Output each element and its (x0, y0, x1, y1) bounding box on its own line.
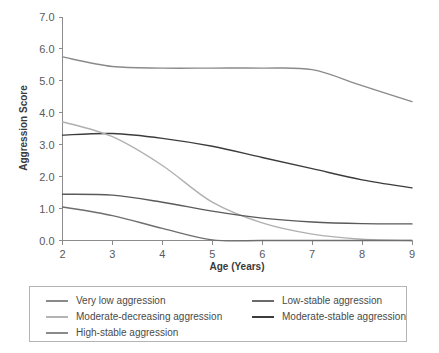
x-axis-ticks: 23456789 (59, 241, 415, 260)
y-tick-label: 3.0 (39, 139, 54, 151)
x-tick-label: 3 (109, 248, 115, 260)
x-tick-label: 6 (259, 248, 265, 260)
aggression-trajectory-figure: 0.01.02.03.04.05.06.07.0 23456789 Aggres… (0, 0, 439, 353)
series-lines (63, 57, 413, 241)
y-tick-label: 6.0 (39, 43, 54, 55)
x-tick-label: 7 (309, 248, 315, 260)
y-axis-title: Aggression Score (18, 85, 29, 171)
x-tick-label: 8 (359, 248, 365, 260)
legend-item-label: High-stable aggression (76, 325, 178, 340)
x-axis-title: Age (Years) (209, 261, 264, 272)
line-chart-svg: 0.01.02.03.04.05.06.07.0 23456789 Aggres… (0, 0, 439, 285)
legend-column-right: Low-stable aggressionModerate-stable agg… (252, 293, 406, 325)
legend-item-label: Moderate-decreasing aggression (76, 309, 222, 324)
legend-line-swatch (252, 300, 274, 302)
x-tick-label: 2 (59, 248, 65, 260)
y-axis-ticks: 0.01.02.03.04.05.06.07.0 (39, 11, 62, 247)
x-tick-label: 9 (409, 248, 415, 260)
series-line (63, 194, 413, 224)
y-tick-label: 5.0 (39, 75, 54, 87)
legend-item-label: Low-stable aggression (282, 293, 382, 308)
legend-grid: Very low aggressionModerate-decreasing a… (30, 287, 406, 341)
y-tick-label: 0.0 (39, 235, 54, 247)
legend-line-swatch (46, 300, 68, 302)
legend-item[interactable]: Very low aggression (46, 293, 222, 308)
legend-line-swatch (46, 316, 68, 318)
legend-item-label: Very low aggression (76, 293, 166, 308)
series-line (63, 133, 413, 187)
y-tick-label: 2.0 (39, 171, 54, 183)
chart-legend: Very low aggressionModerate-decreasing a… (29, 286, 407, 342)
y-tick-label: 7.0 (39, 11, 54, 23)
legend-item[interactable]: High-stable aggression (46, 325, 222, 340)
legend-item[interactable]: Low-stable aggression (252, 293, 406, 308)
series-line (63, 122, 413, 241)
x-tick-label: 5 (209, 248, 215, 260)
y-tick-label: 4.0 (39, 107, 54, 119)
y-tick-label: 1.0 (39, 203, 54, 215)
legend-line-swatch (46, 332, 68, 334)
legend-item[interactable]: Moderate-stable aggression (252, 309, 406, 324)
legend-column-left: Very low aggressionModerate-decreasing a… (46, 293, 222, 341)
legend-line-swatch (252, 316, 274, 318)
chart-plot-area: 0.01.02.03.04.05.06.07.0 23456789 Aggres… (0, 0, 439, 285)
x-tick-label: 4 (159, 248, 165, 260)
legend-item[interactable]: Moderate-decreasing aggression (46, 309, 222, 324)
series-line (63, 57, 413, 102)
legend-item-label: Moderate-stable aggression (282, 309, 406, 324)
